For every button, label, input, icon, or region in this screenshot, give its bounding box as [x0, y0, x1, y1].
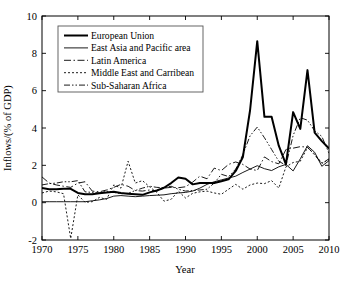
y-axis-title: Inflows/(% of GDP) — [2, 85, 14, 171]
x-tick-label: 1995 — [211, 244, 232, 255]
x-tick-label: 1990 — [175, 244, 196, 255]
y-tick-label: 0 — [32, 197, 37, 208]
legend-label-2: Latin America — [91, 55, 147, 66]
y-tick-label: 2 — [32, 160, 37, 171]
y-tick-label: 8 — [32, 48, 37, 59]
x-axis-title: Year — [175, 264, 195, 275]
x-tick-label: 1980 — [103, 244, 124, 255]
legend-label-0: European Union — [91, 30, 154, 41]
legend-label-3: Middle East and Carribean — [91, 67, 194, 78]
x-tick-label: 1985 — [139, 244, 160, 255]
y-tick-label: 6 — [32, 85, 37, 96]
x-tick-label: 2005 — [283, 244, 304, 255]
x-tick-label: 1975 — [67, 244, 88, 255]
chart-legend: European UnionEast Asia and Pacific area… — [58, 26, 203, 92]
legend-label-1: East Asia and Pacific area — [91, 42, 191, 53]
legend-label-4: Sub-Saharan Africa — [91, 80, 167, 91]
y-tick-label: 4 — [32, 123, 38, 134]
y-tick-label: 10 — [27, 11, 38, 22]
x-tick-label: 2010 — [319, 244, 340, 255]
x-tick-label: 1970 — [32, 244, 53, 255]
y-tick-label: -2 — [28, 235, 37, 246]
line-chart: 197019751980198519901995200020052010-202… — [0, 0, 351, 282]
chart-figure: 197019751980198519901995200020052010-202… — [0, 0, 351, 282]
x-tick-label: 2000 — [247, 244, 268, 255]
